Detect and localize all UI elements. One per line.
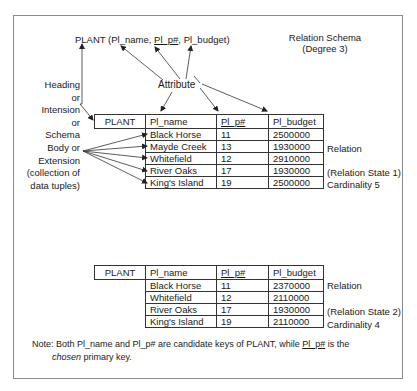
degree-label: (Degree 3) (275, 43, 375, 54)
table-row: Whitefield122110000 (95, 292, 324, 304)
cell: 12 (217, 153, 269, 165)
cell: 1930000 (269, 165, 324, 177)
relation-state-label-1: (Relation State 1) (327, 167, 401, 178)
note-key: Pl_p# (302, 339, 325, 349)
cell: 12 (217, 292, 269, 304)
or-text: or (20, 92, 80, 105)
cell: 17 (217, 165, 269, 177)
cell: 1930000 (269, 304, 324, 316)
relation-state-label-2: (Relation State 2) (327, 306, 401, 317)
table-row: Black Horse112370000 (95, 280, 324, 292)
header-pl-name: Pl_name (146, 115, 217, 129)
collection-text: (collection of (10, 167, 80, 180)
schema-text: Schema (20, 129, 80, 142)
cell: 2500000 (269, 177, 324, 189)
table-row: King's Island192500000 (95, 177, 324, 189)
table-row: Whitefield122910000 (95, 153, 324, 165)
relation-table-state-2: PLANT Pl_name Pl_p# Pl_budget Black Hors… (94, 265, 324, 328)
relation-schema-label: Relation Schema (Degree 3) (275, 32, 375, 54)
or-text: or (20, 117, 80, 130)
note-line-2: chosen primary key. (52, 352, 132, 363)
body-label: Body or Extension (collection of data tu… (10, 142, 80, 192)
cell: King's Island (146, 316, 217, 328)
relation-schema-title: PLANT (Pl_name, Pl_p#, Pl_budget) (75, 34, 230, 45)
cell: Black Horse (146, 280, 217, 292)
attr-pl-name: Pl_name (111, 34, 149, 45)
note: Note: Both Pl_name and Pl_p# are candida… (32, 339, 349, 350)
relation-label-1: Relation (327, 143, 362, 154)
tuples-text: data tuples) (10, 180, 80, 193)
attr-pl-p: Pl_p# (154, 34, 178, 45)
table-row: River Oaks171930000 (95, 304, 324, 316)
cell: 11 (217, 129, 269, 141)
table-header-row: PLANT Pl_name Pl_p# Pl_budget (95, 115, 324, 129)
relation-label-2: Relation (327, 280, 362, 291)
cell: 2110000 (269, 316, 324, 328)
note-text: Note: Both Pl_name and Pl_p# are candida… (32, 339, 302, 349)
header-pl-name: Pl_name (146, 266, 217, 280)
table-row: King's Island192110000 (95, 316, 324, 328)
cell: 11 (217, 280, 269, 292)
header-plant: PLANT (95, 115, 146, 129)
cell: 19 (217, 316, 269, 328)
cell: 2370000 (269, 280, 324, 292)
cell: Whitefield (146, 292, 217, 304)
heading-label: Heading or Intension or Schema (20, 79, 80, 142)
attr-pl-budget: Pl_budget (184, 34, 227, 45)
table-row: Mayde Creek131930000 (95, 141, 324, 153)
cell: 13 (217, 141, 269, 153)
cell: River Oaks (146, 165, 217, 177)
cell: 2110000 (269, 292, 324, 304)
cell: 1930000 (269, 141, 324, 153)
cell: Black Horse (146, 129, 217, 141)
cell: Mayde Creek (146, 141, 217, 153)
intension-text: Intension (20, 104, 80, 117)
header-plant: PLANT (95, 266, 146, 280)
cell: Whitefield (146, 153, 217, 165)
header-pl-budget: Pl_budget (269, 266, 324, 280)
note-text: primary key. (81, 352, 132, 362)
cardinality-label-2: Cardinality 4 (327, 319, 380, 330)
paren-close: ) (226, 34, 229, 45)
relation-table-state-1: PLANT Pl_name Pl_p# Pl_budget Black Hors… (94, 114, 324, 189)
note-chosen: chosen (52, 352, 81, 362)
body-text: Body or (10, 142, 80, 155)
extension-text: Extension (10, 155, 80, 168)
cell: 19 (217, 177, 269, 189)
table-header-row: PLANT Pl_name Pl_p# Pl_budget (95, 266, 324, 280)
relation-name: PLANT (75, 34, 105, 45)
cell: River Oaks (146, 304, 217, 316)
schema-label-line1: Relation Schema (275, 32, 375, 43)
heading-text: Heading (20, 79, 80, 92)
attribute-label: Attribute (158, 79, 195, 90)
cardinality-label-1: Cardinality 5 (327, 179, 380, 190)
header-pl-p: Pl_p# (217, 115, 269, 129)
cell: King's Island (146, 177, 217, 189)
cell: 17 (217, 304, 269, 316)
table-row: Black Horse112500000 (95, 129, 324, 141)
header-pl-budget: Pl_budget (269, 115, 324, 129)
cell: 2910000 (269, 153, 324, 165)
header-pl-p: Pl_p# (217, 266, 269, 280)
cell: 2500000 (269, 129, 324, 141)
table-row: River Oaks171930000 (95, 165, 324, 177)
note-text: is the (325, 339, 349, 349)
